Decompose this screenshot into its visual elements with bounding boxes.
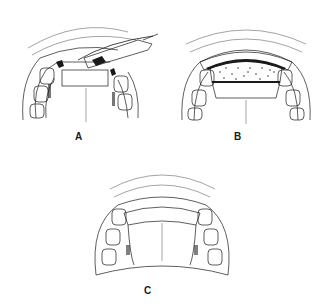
- panel-b-illustration: [176, 10, 316, 125]
- panel-a-label: A: [75, 131, 82, 142]
- panel-c: [90, 165, 235, 283]
- panel-a-illustration: [18, 10, 158, 125]
- panel-c-label: C: [144, 285, 151, 296]
- panel-b-label: B: [234, 131, 241, 142]
- panel-c-illustration: [90, 165, 235, 283]
- panel-b: [176, 10, 316, 125]
- panel-a: [18, 10, 158, 125]
